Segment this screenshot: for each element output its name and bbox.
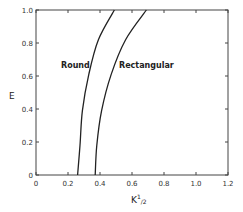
x-axis-label: K1/2 — [131, 193, 147, 205]
x-axis-ticks: 00.20.40.60.81.01.2 — [34, 10, 234, 188]
curve-rectangular — [95, 10, 146, 175]
x-tick-label: 0.6 — [126, 180, 138, 188]
x-tick-label: 0.2 — [62, 180, 73, 188]
round-label: Round — [61, 61, 90, 70]
curve-annotations: Round Rectangular — [61, 61, 174, 70]
chart: 00.20.40.60.81.01.2 00.20.40.60.81.0 Rou… — [0, 0, 243, 212]
svg-text:K1/2: K1/2 — [131, 193, 147, 205]
x-tick-label: 1.2 — [222, 180, 233, 188]
x-tick-label: 0.4 — [94, 180, 106, 188]
x-tick-label: 1.0 — [190, 180, 201, 188]
x-axis-label-sub: /2 — [141, 198, 147, 205]
plot-border — [36, 10, 228, 175]
y-tick-label: 0.2 — [22, 139, 33, 147]
y-tick-label: 0.4 — [22, 106, 34, 114]
y-tick-label: 0.6 — [22, 73, 34, 81]
y-tick-label: 0.8 — [22, 40, 33, 48]
rectangular-label: Rectangular — [119, 61, 174, 70]
y-tick-label: 1.0 — [22, 7, 33, 15]
y-axis-ticks: 00.20.40.60.81.0 — [22, 7, 228, 180]
y-tick-label: 0 — [29, 172, 33, 180]
x-tick-label: 0 — [34, 180, 38, 188]
plot-frame — [36, 10, 228, 175]
y-axis-label: E — [9, 91, 15, 101]
curves — [78, 10, 147, 175]
x-tick-label: 0.8 — [158, 180, 169, 188]
